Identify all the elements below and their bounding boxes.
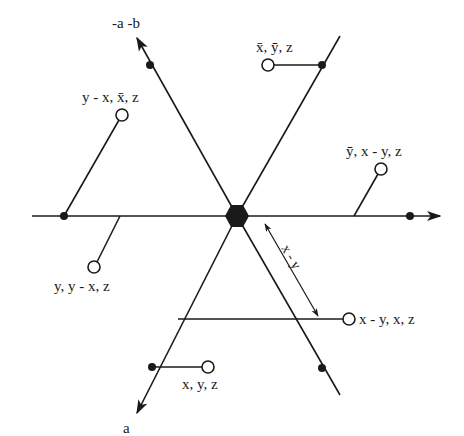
site-circle-xbar-ybar	[262, 59, 274, 71]
axis-label-a: a	[123, 420, 130, 436]
connector-y-yx	[97, 216, 120, 262]
site-circle-ybar-xy	[375, 163, 387, 175]
connector-yx-xbar	[64, 120, 119, 216]
site-circle-yx-xbar	[116, 109, 128, 121]
site-label-yx-xbar: y - x, x̄, z	[82, 89, 139, 105]
site-label-xy-x: x - y, x, z	[359, 311, 415, 327]
site-label-x-y: x, y, z	[182, 376, 218, 392]
site-label-ybar-xy: ȳ, x - y, z	[346, 143, 402, 159]
site-label-xbar-ybar: x̄, ȳ, z	[256, 39, 293, 55]
diagram-canvas: -a -b a x̄, ȳ, z y - x, x̄, z ȳ, x - y, …	[0, 0, 464, 436]
site-circle-xy-x	[343, 313, 355, 325]
dimension-label: x - y	[278, 242, 304, 272]
site-circle-x-y	[202, 361, 214, 373]
center-hexagon	[225, 205, 249, 227]
site-circle-y-yx	[88, 261, 100, 273]
connector-ybar-xy	[354, 174, 378, 216]
site-label-y-yx: y, y - x, z	[54, 278, 110, 294]
axis-label-neg-a-b: -a -b	[112, 15, 140, 31]
hexagonal-lattice-diagram: -a -b a x̄, ȳ, z y - x, x̄, z ȳ, x - y, …	[0, 0, 464, 436]
